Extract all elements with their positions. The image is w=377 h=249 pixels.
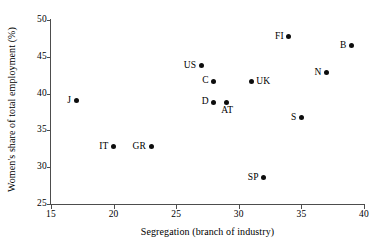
- x-axis-tick-label: 15: [38, 210, 64, 220]
- data-point-marker: [286, 34, 291, 39]
- data-point-marker: [74, 98, 79, 103]
- data-point-marker: [199, 63, 204, 68]
- data-point-label: UK: [256, 77, 270, 87]
- x-axis-tick-label: 40: [351, 210, 377, 220]
- data-point-label: GR: [133, 142, 147, 152]
- data-point-label: B: [340, 41, 347, 51]
- data-point-label: S: [291, 113, 296, 123]
- data-point-marker: [349, 43, 354, 48]
- x-axis-tick-label: 20: [101, 210, 127, 220]
- data-point-marker: [324, 70, 329, 75]
- y-axis-tick-label: 25: [23, 199, 47, 209]
- y-axis-tick-label: 45: [23, 52, 47, 62]
- data-point-label: IT: [99, 142, 108, 152]
- data-point-label: N: [314, 68, 321, 78]
- data-point-label: SP: [248, 173, 259, 183]
- plot-area: JITGRUSCDATUKSPFISNB: [51, 20, 364, 204]
- x-axis-title: Segregation (branch of industry): [51, 226, 364, 237]
- data-point-marker: [261, 175, 266, 180]
- y-axis-tick-label: 50: [23, 15, 47, 25]
- data-point-marker: [299, 115, 304, 120]
- x-axis-line: [50, 204, 365, 205]
- data-point-label: C: [202, 76, 209, 86]
- data-point-label: D: [202, 97, 209, 107]
- data-point-marker: [249, 79, 254, 84]
- data-point-marker: [224, 100, 229, 105]
- x-axis-tick-label: 30: [226, 210, 252, 220]
- y-axis-tick-label: 40: [23, 89, 47, 99]
- x-axis-tick-label: 35: [288, 210, 314, 220]
- data-point-label: US: [184, 61, 197, 71]
- data-point-label: J: [67, 96, 71, 106]
- y-axis-tick-label: 35: [23, 125, 47, 135]
- y-axis-tick-label: 30: [23, 162, 47, 172]
- data-point-marker: [211, 100, 216, 105]
- data-point-label: AT: [221, 106, 233, 116]
- data-point-label: FI: [275, 32, 284, 42]
- x-axis-tick-label: 25: [163, 210, 189, 220]
- data-point-marker: [149, 144, 154, 149]
- data-point-marker: [111, 144, 116, 149]
- scatter-plot-figure: 253035404550152025303540 JITGRUSCDATUKSP…: [0, 0, 377, 249]
- data-point-marker: [211, 79, 216, 84]
- y-axis-title: Women's share of total employment (%): [6, 17, 17, 203]
